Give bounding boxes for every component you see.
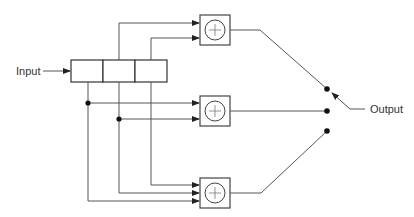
output-label: Output (370, 103, 403, 115)
convolutional-encoder-diagram: Input Out (0, 0, 414, 217)
switch-contact-middle (324, 108, 330, 114)
adder-middle (200, 96, 230, 126)
register-cell-1 (71, 60, 103, 82)
input-label: Input (16, 65, 40, 77)
wire-cell3-to-bottom-adder (151, 82, 199, 185)
shift-register (71, 60, 167, 82)
wire-cell3-to-top-adder (151, 38, 199, 60)
junction-dot (116, 116, 121, 121)
wire-bottom-adder-to-switch (230, 131, 327, 193)
register-cell-2 (103, 60, 135, 82)
switch-contact-top (324, 86, 330, 92)
wire-cell1-to-bottom-adder (88, 82, 199, 201)
wire-top-adder-to-switch (230, 30, 327, 89)
adder-bottom (200, 178, 230, 208)
switch-contact-bottom (324, 128, 330, 134)
adder-top (200, 15, 230, 45)
wire-cell2-to-top-adder (119, 23, 199, 60)
wire-cell2-to-bottom-adder (119, 82, 199, 193)
junction-dot (85, 100, 90, 105)
commutator-arm (332, 93, 350, 109)
register-cell-3 (135, 60, 167, 82)
